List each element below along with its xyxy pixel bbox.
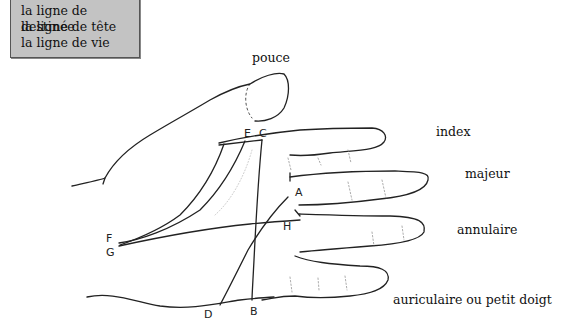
point-a: A <box>295 186 303 199</box>
point-d: D <box>204 308 212 321</box>
label-thumb: pouce <box>252 50 290 65</box>
point-g: G <box>106 246 115 259</box>
label-little: auriculaire ou petit doigt <box>393 292 552 307</box>
label-middle: majeur <box>465 166 510 181</box>
point-c: C <box>259 127 267 140</box>
point-e: E <box>244 127 251 140</box>
label-index: index <box>436 124 471 139</box>
label-ring: annulaire <box>457 222 517 237</box>
point-h: H <box>283 220 291 233</box>
point-b: B <box>250 305 258 318</box>
point-f: F <box>106 232 112 245</box>
